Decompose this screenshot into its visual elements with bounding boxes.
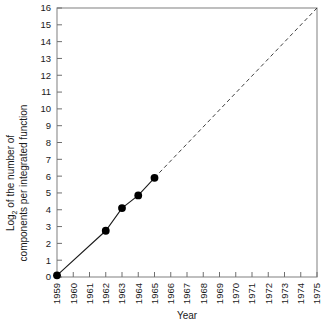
y-tick-label: 11 (41, 86, 51, 97)
y-tick-label: 9 (46, 120, 51, 131)
x-tick-label: 1971 (246, 283, 257, 304)
chart-svg: 012345678910111213141516 195919601961196… (0, 0, 328, 328)
y-tick-label: 6 (46, 171, 51, 182)
x-tick-label: 1966 (165, 283, 176, 304)
y-axis-title-prefix: Log (5, 214, 16, 231)
y-tick-label: 8 (46, 137, 51, 148)
x-tick-label: 1969 (214, 283, 225, 304)
data-point-marker (102, 227, 110, 235)
y-tick-label: 0 (46, 271, 51, 282)
x-tick-label: 1963 (116, 283, 127, 304)
x-tick-label: 1970 (230, 283, 241, 304)
x-tick-label: 1968 (198, 283, 209, 304)
y-tick-label: 14 (40, 36, 51, 47)
y-tick-label: 15 (40, 19, 51, 30)
x-tick-label: 1965 (149, 283, 160, 304)
data-point-marker (53, 271, 61, 279)
y-tick-label: 4 (46, 204, 51, 215)
y-tick-label: 3 (46, 221, 51, 232)
data-point-marker (134, 192, 142, 200)
x-tick-label: 1959 (51, 283, 62, 304)
x-tick-label: 1960 (68, 283, 79, 304)
data-point-marker (118, 204, 126, 212)
y-tick-label: 12 (40, 70, 51, 81)
x-tick-label: 1964 (133, 283, 144, 304)
x-tick-label: 1975 (311, 283, 322, 304)
y-tick-label: 13 (40, 53, 51, 64)
y-axis-title-rest: of the number of (5, 135, 16, 211)
x-axis-tick-labels: 1959196019611962196319641965196619671968… (51, 283, 322, 304)
y-tick-label: 5 (46, 187, 51, 198)
y-tick-label: 2 (46, 238, 51, 249)
x-tick-label: 1961 (84, 283, 95, 304)
y-tick-label: 1 (46, 255, 51, 266)
chart-figure: 012345678910111213141516 195919601961196… (0, 0, 328, 328)
x-axis-title: Year (177, 310, 198, 321)
data-point-marker (151, 174, 159, 182)
x-tick-label: 1962 (100, 283, 111, 304)
y-tick-label: 10 (40, 103, 51, 114)
x-tick-label: 1972 (263, 283, 274, 304)
x-tick-label: 1974 (295, 283, 306, 304)
y-axis-title-line2: components per integrated function (18, 105, 29, 262)
y-tick-label: 7 (46, 154, 51, 165)
x-tick-label: 1973 (279, 283, 290, 304)
x-tick-label: 1967 (181, 283, 192, 304)
y-tick-label: 16 (40, 2, 51, 13)
